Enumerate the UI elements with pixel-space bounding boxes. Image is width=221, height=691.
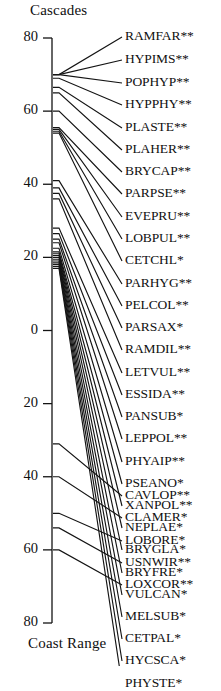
species-label: ESSIDA**: [125, 386, 185, 402]
axis-tick-label: 0: [8, 321, 38, 338]
connector-lines: [53, 37, 122, 666]
bottom-axis-title: Coast Range: [28, 635, 106, 652]
species-connector: [53, 37, 122, 75]
species-label: HYCSCA*: [125, 652, 186, 668]
axis-tick-label: 20: [8, 394, 38, 411]
species-label: CETCHL*: [125, 252, 184, 268]
species-connector: [53, 78, 122, 105]
species-label: EVEPRU**: [125, 208, 190, 224]
axis-tick-label: 40: [8, 174, 38, 191]
species-label: LOXCOR**: [125, 576, 193, 592]
species-label: PARPSE**: [125, 185, 186, 201]
species-label: LETVUL**: [125, 364, 190, 380]
species-label: PHYSTE*: [125, 675, 182, 691]
species-label: PARHYG**: [125, 275, 192, 291]
species-label: LOBPUL**: [125, 230, 190, 246]
species-label: CLAMER*: [125, 509, 187, 525]
species-label: MELSUB*: [125, 608, 186, 624]
species-label: RAMFAR**: [125, 28, 194, 44]
species-connector: [53, 513, 122, 541]
species-label: LEPPOL**: [125, 430, 187, 446]
axis-tick-label: 40: [8, 467, 38, 484]
species-label: PELCOL**: [125, 297, 189, 313]
species-label: PLAHER**: [125, 141, 190, 157]
species-connector: [53, 444, 122, 496]
species-connector: [53, 131, 122, 239]
species-label: PARSAX*: [125, 319, 183, 335]
axis-tick-label: 60: [8, 540, 38, 557]
species-label: USNWIR**: [125, 554, 191, 570]
species-connector: [53, 87, 122, 128]
species-label: POPHYP**: [125, 74, 189, 90]
top-axis-title: Cascades: [30, 2, 87, 19]
species-label: LOBORE*: [125, 532, 185, 548]
axis-tick-label: 20: [8, 247, 38, 264]
species-label: RAMDIL**: [125, 341, 191, 357]
species-label: PANSUB*: [125, 408, 183, 424]
species-label: PLASTE**: [125, 119, 187, 135]
axis-tick-label: 60: [8, 101, 38, 118]
axis-ticks: [43, 38, 52, 623]
species-label: HYPPHY**: [125, 96, 192, 112]
axis-tick-label: 80: [8, 28, 38, 45]
species-connector: [53, 263, 122, 617]
species-label: BRYCAP**: [125, 163, 191, 179]
species-connector: [53, 528, 122, 563]
species-label: CAVLOP**: [125, 487, 190, 503]
axis-tick-label: 80: [8, 613, 38, 630]
species-label: PHYAIP**: [125, 453, 185, 469]
species-connector: [53, 550, 122, 585]
species-connector: [53, 75, 122, 83]
species-label: CETPAL*: [125, 630, 181, 646]
species-label: HYPIMS**: [125, 51, 189, 67]
